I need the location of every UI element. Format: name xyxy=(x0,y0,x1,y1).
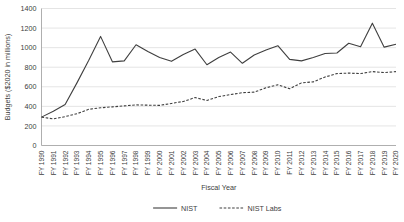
x-tick-label: FY 2017 xyxy=(357,150,364,175)
x-tick-label: FY 2009 xyxy=(262,150,269,175)
x-tick-label: FY 2016 xyxy=(345,150,352,175)
x-tick-label: FY 2005 xyxy=(215,150,222,175)
chart-legend: NISTNIST Labs xyxy=(153,204,282,213)
data-series-group xyxy=(42,23,397,119)
axes-group xyxy=(42,9,397,146)
series-line-nist-labs xyxy=(42,72,397,119)
x-tick-label: FY 2010 xyxy=(274,150,281,175)
y-tick-label: 1000 xyxy=(21,43,37,52)
x-tick-label: FY 1991 xyxy=(50,150,57,175)
x-tick-label: FY 1998 xyxy=(132,150,139,175)
chart-container: 0200400600800100012001400 FY 1990FY 1991… xyxy=(0,0,404,222)
x-tick-label: FY 2019 xyxy=(381,150,388,175)
y-tick-label: 1200 xyxy=(21,24,37,33)
y-tick-label: 400 xyxy=(25,102,37,111)
x-tick-label: FY 2003 xyxy=(192,150,199,175)
x-tick-label: FY 2004 xyxy=(203,150,210,175)
legend-item-nist: NIST xyxy=(153,204,198,213)
y-tick-labels-group: 0200400600800100012001400 xyxy=(21,4,37,150)
x-tick-label: FY 2001 xyxy=(168,150,175,175)
x-tick-label: FY 2000 xyxy=(156,150,163,175)
x-tick-label: FY 1999 xyxy=(144,150,151,175)
x-tick-label: FY 1993 xyxy=(73,150,80,175)
x-tick-label: FY 2011 xyxy=(286,150,293,175)
x-tick-label: FY 2014 xyxy=(322,150,329,175)
x-tick-label: FY 2020 xyxy=(392,150,399,175)
x-tick-label: FY 2002 xyxy=(180,150,187,175)
x-tick-label: FY 2007 xyxy=(239,150,246,175)
x-tick-label: FY 1995 xyxy=(97,150,104,175)
x-tick-label: FY 2015 xyxy=(333,150,340,175)
y-tick-label: 800 xyxy=(25,63,37,72)
legend-label: NIST xyxy=(181,204,198,213)
y-tick-label: 600 xyxy=(25,82,37,91)
x-tick-label: FY 2006 xyxy=(227,150,234,175)
y-axis-title: Budgets ($2020 in millions) xyxy=(3,34,12,121)
line-chart: 0200400600800100012001400 FY 1990FY 1991… xyxy=(0,0,404,222)
legend-item-nist-labs: NIST Labs xyxy=(220,204,282,213)
y-tick-label: 200 xyxy=(25,122,37,131)
x-tick-label: FY 1994 xyxy=(85,150,92,175)
x-tick-label: FY 2018 xyxy=(369,150,376,175)
x-tick-label: FY 1997 xyxy=(121,150,128,175)
x-tick-label: FY 1992 xyxy=(62,150,69,175)
x-tick-label: FY 2013 xyxy=(310,150,317,175)
y-tick-label: 0 xyxy=(33,141,37,150)
x-tick-label: FY 2008 xyxy=(251,150,258,175)
x-tick-label: FY 2012 xyxy=(298,150,305,175)
legend-label: NIST Labs xyxy=(248,204,282,213)
x-axis-title: Fiscal Year xyxy=(201,183,237,192)
x-tick-label: FY 1996 xyxy=(109,150,116,175)
x-tick-labels-group: FY 1990FY 1991FY 1992FY 1993FY 1994FY 19… xyxy=(38,150,400,175)
y-tick-label: 1400 xyxy=(21,4,37,13)
series-line-nist xyxy=(42,23,397,117)
x-tick-label: FY 1990 xyxy=(38,150,45,175)
